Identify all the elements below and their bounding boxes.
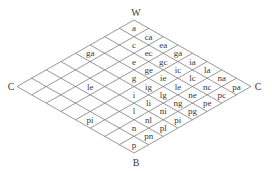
grid-cell-label: la bbox=[204, 65, 211, 75]
corner-label-left: C bbox=[8, 81, 15, 92]
grid-cell-label: pc bbox=[218, 90, 227, 100]
grid-cell-label: pi bbox=[174, 115, 182, 125]
grid-cell-label: nl bbox=[145, 115, 153, 125]
grid-cell-label: lc bbox=[189, 73, 196, 83]
grid-cell-label: g bbox=[132, 73, 137, 83]
grid-cell-label: pe bbox=[203, 98, 212, 108]
grid-cell-label: ne bbox=[188, 90, 197, 100]
grid-cell-label: i bbox=[133, 90, 136, 100]
grid-cell-label: nc bbox=[203, 82, 212, 92]
grid-cell-label: ni bbox=[160, 106, 168, 116]
grid-cell-label: l bbox=[133, 106, 136, 116]
corner-label-bottom: B bbox=[133, 157, 140, 168]
grid-cell-label: a bbox=[132, 23, 136, 33]
grid-cell-label: e bbox=[132, 57, 136, 67]
grid-cell-label: le bbox=[87, 82, 94, 92]
corner-label-top: W bbox=[131, 7, 141, 18]
corner-label-right: C bbox=[255, 81, 262, 92]
rhombus-grid-diagram: acaeagaialanapacecgciclcncpcegeielenepeg… bbox=[0, 0, 272, 171]
grid-cell-label: gc bbox=[159, 57, 168, 67]
grid-cell-label: ge bbox=[144, 65, 153, 75]
grid-cell-label: ng bbox=[173, 98, 183, 108]
grid-cell-label: p bbox=[132, 140, 137, 150]
grid-cell-label: ca bbox=[145, 32, 153, 42]
grid-cell-label: ga bbox=[86, 48, 95, 58]
grid-cell-label: pn bbox=[144, 131, 154, 141]
grid-cell-label: pi bbox=[87, 115, 95, 125]
grid-cell-label: ga bbox=[174, 48, 183, 58]
grid-cell-label: li bbox=[146, 98, 152, 108]
grid-canvas: acaeagaialanapacecgciclcncpcegeielenepeg… bbox=[0, 0, 272, 171]
grid-cell-label: n bbox=[132, 123, 137, 133]
grid-cell-label: c bbox=[132, 40, 136, 50]
grid-cell-label: pg bbox=[188, 106, 198, 116]
grid-cell-label: pl bbox=[160, 123, 168, 133]
grid-cell-label: ig bbox=[145, 82, 153, 92]
grid-cell-label: pa bbox=[232, 82, 241, 92]
grid-cell-label: le bbox=[175, 82, 182, 92]
grid-cell-label: ia bbox=[189, 57, 196, 67]
grid-cell-label: ec bbox=[145, 48, 153, 58]
grid-cell-label: ie bbox=[160, 73, 167, 83]
grid-cell-label: lg bbox=[160, 90, 168, 100]
grid-cell-label: ea bbox=[159, 40, 167, 50]
grid-cell-label: ic bbox=[175, 65, 182, 75]
grid-cell-label: na bbox=[218, 73, 227, 83]
